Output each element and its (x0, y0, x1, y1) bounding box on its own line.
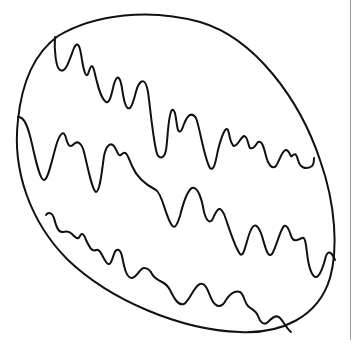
page-edge-line (350, 0, 351, 340)
egg-drawing (0, 0, 353, 348)
middle-stripe (18, 117, 335, 277)
egg-outline (17, 14, 335, 332)
coloring-page (0, 0, 353, 348)
top-stripe (55, 37, 314, 169)
